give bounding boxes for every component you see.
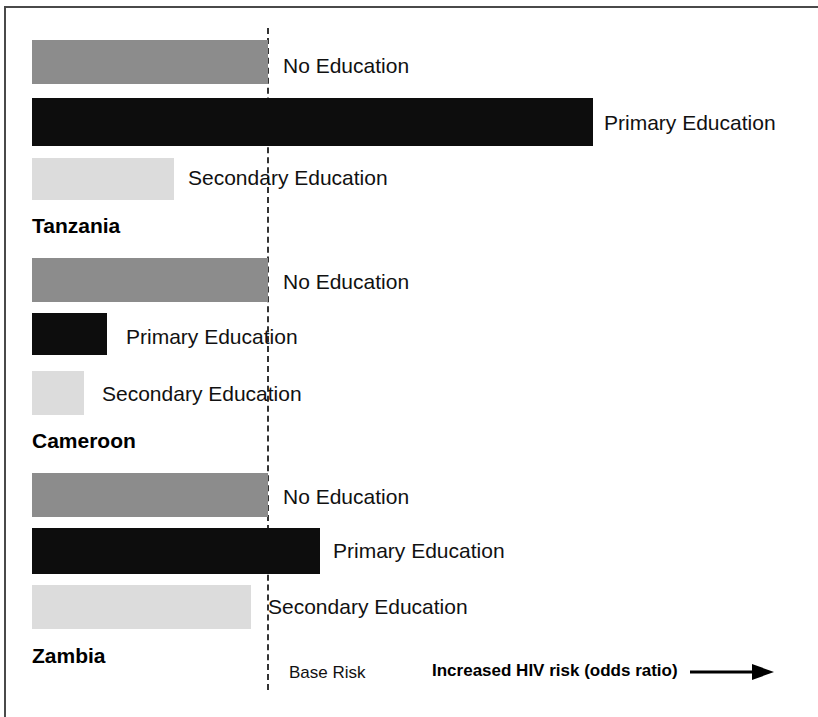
bar-label-zambia-no-education: No Education	[283, 486, 409, 507]
bar-label-zambia-primary-education: Primary Education	[333, 540, 505, 561]
bar-cameroon-secondary-education	[32, 371, 84, 415]
base-risk-label: Base Risk	[289, 664, 366, 681]
bar-label-zambia-secondary-education: Secondary Education	[268, 596, 468, 617]
bar-tanzania-no-education	[32, 40, 268, 84]
bar-zambia-no-education	[32, 473, 268, 517]
hiv-risk-bar-chart: No Education Primary Education Secondary…	[0, 0, 818, 717]
bar-cameroon-primary-education	[32, 313, 107, 355]
bar-label-tanzania-no-education: No Education	[283, 55, 409, 76]
bar-tanzania-primary-education	[32, 98, 593, 146]
axis-note-label: Increased HIV risk (odds ratio)	[432, 662, 678, 679]
bar-label-tanzania-secondary-education: Secondary Education	[188, 167, 388, 188]
country-label-zambia: Zambia	[32, 645, 106, 666]
bar-zambia-secondary-education	[32, 585, 251, 629]
bar-zambia-primary-education	[32, 528, 320, 574]
bar-label-cameroon-secondary-education: Secondary Education	[102, 383, 302, 404]
bar-label-tanzania-primary-education: Primary Education	[604, 112, 776, 133]
country-label-tanzania: Tanzania	[32, 215, 120, 236]
bar-label-cameroon-primary-education: Primary Education	[126, 326, 298, 347]
bar-label-cameroon-no-education: No Education	[283, 271, 409, 292]
bar-tanzania-secondary-education	[32, 158, 174, 200]
country-label-cameroon: Cameroon	[32, 430, 136, 451]
bar-cameroon-no-education	[32, 258, 268, 302]
plot-area: No Education Primary Education Secondary…	[0, 0, 818, 717]
right-arrow-icon	[690, 662, 774, 682]
